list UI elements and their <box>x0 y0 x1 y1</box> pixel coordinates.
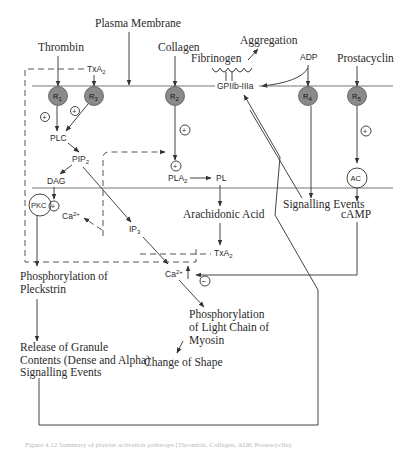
gpiib-iiia-label: GPIIb-IIIa <box>217 81 254 91</box>
plasma-membrane-label: Plasma Membrane <box>95 17 181 29</box>
svg-text:+: + <box>72 108 76 115</box>
thrombin-label: Thrombin <box>38 41 84 53</box>
pkc-node: PKC <box>29 194 51 216</box>
aggregation-label: Aggregation <box>240 34 298 47</box>
pip2-to-dag-arrow <box>60 165 72 174</box>
plc-to-pip2-arrow <box>68 143 79 152</box>
ca-upper-label: Ca2+ <box>62 211 80 221</box>
svg-text:+: + <box>51 203 55 210</box>
svg-text:+: + <box>173 163 177 170</box>
arachidonic-acid-label: Arachidonic Acid <box>183 208 265 220</box>
txa2-top-label: TxA2 <box>87 64 106 75</box>
receptor-r1: R1 <box>49 87 68 106</box>
release-label-line-3: Signalling Events <box>20 366 102 379</box>
ac-node: AC <box>347 168 367 188</box>
r3-to-plc-arrow <box>66 104 88 131</box>
receptor-r3: R3 <box>85 87 104 106</box>
adp-label: ADP <box>300 52 318 62</box>
pla2-label: PLA2 <box>168 173 188 184</box>
svg-text:−: − <box>202 277 207 286</box>
svg-text:+: + <box>42 114 46 121</box>
pl-label: PL <box>216 173 227 183</box>
minus-icon-camp: − <box>200 276 210 286</box>
myosin-label-line-3: Myosin <box>189 334 224 347</box>
fibrinogen-label: Fibrinogen <box>191 52 242 65</box>
myosin-to-shape-arrow <box>177 341 183 353</box>
figure-caption: Figure 4.12 Summary of platelet activati… <box>25 441 292 449</box>
ca-lower-label: Ca2+ <box>165 269 183 279</box>
ip3-label: IP3 <box>129 224 141 235</box>
svg-text:PKC: PKC <box>31 201 47 210</box>
svg-text:AC: AC <box>351 174 362 183</box>
svg-text:+: + <box>363 128 367 135</box>
receptor-r4: R4 <box>299 87 318 106</box>
plus-icon-pkc: + <box>49 201 59 211</box>
prostacyclin-label: Prostacyclin <box>337 52 394 65</box>
pip2-to-ip3-arrow <box>83 167 131 222</box>
ip3-to-ca-arrow <box>143 237 168 264</box>
txa2-mid-label: TxA2 <box>214 248 233 259</box>
ca-release-dashed-arrow <box>84 218 102 230</box>
change-of-shape-label: Change of Shape <box>144 356 223 369</box>
signalling-events-right-label: Signalling Events <box>283 198 365 211</box>
pleckstrin-label-line-2: Pleckstrin <box>20 283 66 295</box>
svg-text:+: + <box>182 127 186 134</box>
dag-label: DAG <box>47 176 65 186</box>
receptor-r5: R5 <box>348 87 367 106</box>
plus-icon-r5: + <box>361 126 371 136</box>
pip2-label: PIP2 <box>72 154 90 165</box>
adp-to-gpiib-arrow <box>262 68 308 86</box>
fibrinogen-wave <box>212 68 252 72</box>
plus-icon-pla2: + <box>171 161 181 171</box>
receptor-r2: R2 <box>166 87 185 106</box>
aggregation-arrow <box>248 49 258 60</box>
myosin-label-line-2: of Light Chain of <box>189 321 269 334</box>
pip2-to-signalling-line <box>250 110 302 198</box>
release-label-line-1: Release of Granule <box>20 341 108 353</box>
pleckstrin-label-line-1: Phosphorylation of <box>20 270 108 283</box>
plc-label: PLC <box>50 133 67 143</box>
plus-icon-r3: + <box>71 107 80 116</box>
plus-icon-r1: + <box>41 113 50 122</box>
platelet-activation-diagram: Plasma Membrane Thrombin TxA2 Collagen F… <box>0 0 411 451</box>
ca-to-myosin-arrow <box>179 280 204 307</box>
plus-icon-r2: + <box>180 125 190 135</box>
myosin-label-line-1: Phosphorylation <box>189 308 265 321</box>
